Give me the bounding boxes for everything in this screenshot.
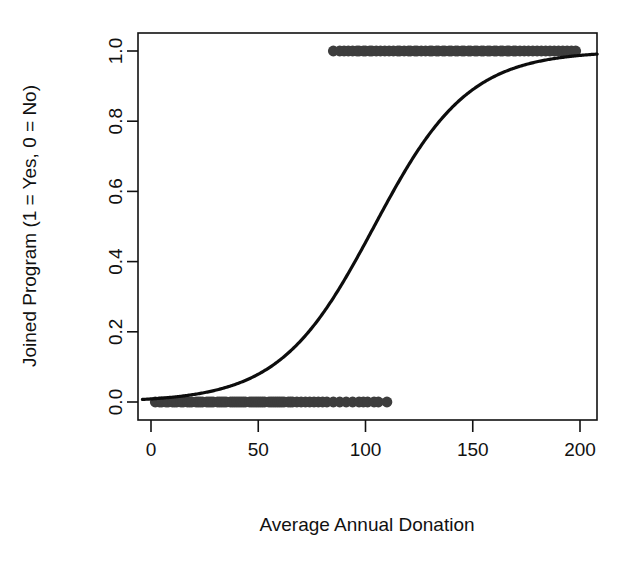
- chart-figure: 0.00.20.40.60.81.0 050100150200 Average …: [0, 0, 635, 561]
- y-tick-label: 0.0: [105, 389, 126, 415]
- y-axis-tick-labels: 0.00.20.40.60.81.0: [105, 38, 126, 415]
- x-axis-ticks: [151, 420, 580, 432]
- data-point: [382, 397, 393, 408]
- y-axis-ticks: [127, 51, 138, 402]
- x-axis-tick-labels: 050100150200: [146, 439, 596, 460]
- y-tick-label: 0.2: [105, 319, 126, 345]
- y-axis-label: Joined Program (1 = Yes, 0 = No): [19, 85, 40, 367]
- x-tick-label: 50: [248, 439, 269, 460]
- data-points: [150, 46, 581, 408]
- y-tick-label: 0.6: [105, 178, 126, 204]
- x-tick-label: 0: [146, 439, 157, 460]
- x-tick-label: 200: [564, 439, 596, 460]
- fitted-logistic-curve: [142, 54, 597, 399]
- y-tick-label: 1.0: [105, 38, 126, 64]
- y-tick-label: 0.8: [105, 108, 126, 134]
- y-tick-label: 0.4: [105, 248, 126, 275]
- plot-frame: [138, 33, 597, 420]
- x-tick-label: 150: [457, 439, 489, 460]
- x-tick-label: 100: [350, 439, 382, 460]
- x-axis-label: Average Annual Donation: [259, 514, 474, 535]
- logistic-regression-plot: 0.00.20.40.60.81.0 050100150200 Average …: [0, 0, 635, 561]
